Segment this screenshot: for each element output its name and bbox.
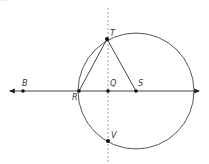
label-b: B: [22, 79, 28, 88]
geometry-diagram: B R Q S T V: [0, 0, 209, 164]
point-v: [106, 139, 110, 143]
point-s: [134, 89, 138, 93]
segment-rt: [79, 39, 107, 91]
point-r: [77, 89, 81, 93]
point-b: [21, 89, 25, 93]
point-q: [106, 89, 110, 93]
label-q: Q: [110, 79, 116, 88]
point-t: [105, 37, 109, 41]
label-v: V: [111, 131, 117, 140]
label-r: R: [72, 93, 78, 102]
label-s: S: [138, 79, 143, 88]
